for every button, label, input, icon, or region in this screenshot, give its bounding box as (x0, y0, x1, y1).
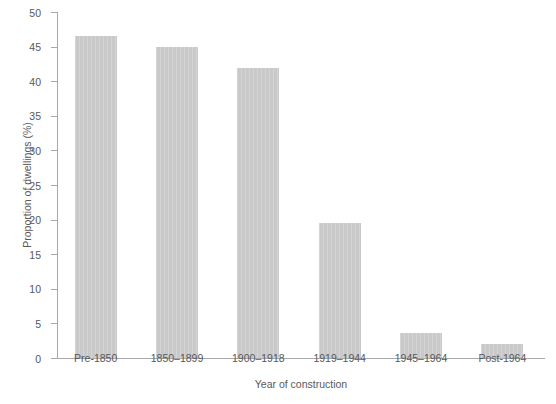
y-axis-tick-label: 20 (29, 214, 41, 226)
y-axis-tick-label: 0 (35, 353, 41, 365)
y-axis-tick-label: 35 (29, 110, 41, 122)
bars-layer (57, 12, 545, 358)
bar-chart: Proportion of dwellings (%) 051015202530… (0, 0, 556, 404)
x-axis-tick-label: 1900–1918 (218, 352, 299, 364)
y-axis-tick-label: 40 (29, 76, 41, 88)
y-axis-tick-label: 30 (29, 145, 41, 157)
x-axis-tick-label: Pre-1850 (55, 352, 136, 364)
y-axis-tick-label: 15 (29, 249, 41, 261)
y-axis-tick-label: 25 (29, 180, 41, 192)
y-axis-tick-label: 50 (29, 7, 41, 19)
x-axis-tick-label: 1919–1944 (299, 352, 380, 364)
x-axis-title: Year of construction (57, 378, 545, 390)
bar (237, 68, 279, 358)
x-axis-tick-label: Post-1964 (462, 352, 543, 364)
y-axis-tick-label: 5 (35, 318, 41, 330)
y-axis-tick-label: 45 (29, 41, 41, 53)
bar (319, 223, 361, 358)
bar (75, 36, 117, 358)
y-axis-tick-label: 10 (29, 283, 41, 295)
bar (156, 47, 198, 358)
x-axis-tick-label: 1945–1964 (380, 352, 461, 364)
plot-area: 05101520253035404550 (57, 12, 545, 358)
x-axis-tick-label: 1850–1899 (136, 352, 217, 364)
